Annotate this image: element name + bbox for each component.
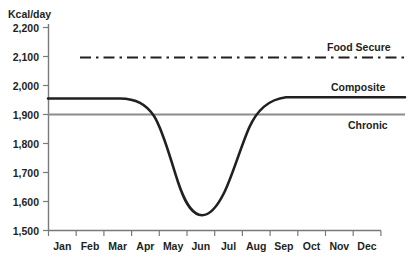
y-tick-label-2100: 2,100 — [13, 51, 39, 63]
x-tick-label-jan: Jan — [53, 240, 71, 252]
y-tick-label-2200: 2,200 — [13, 22, 39, 34]
x-tick-label-aug: Aug — [246, 240, 266, 252]
chart-container: Kcal/day 2,200 2,100 2,000 1,900 1,800 1… — [0, 0, 410, 262]
chart-canvas: Kcal/day 2,200 2,100 2,000 1,900 1,800 1… — [0, 0, 410, 262]
x-tick-label-dec: Dec — [357, 240, 376, 252]
x-tick-label-nov: Nov — [329, 240, 349, 252]
y-tick-label-1600: 1,600 — [13, 196, 39, 208]
x-axis-ticks — [49, 231, 381, 237]
chart-legend: Food Secure Composite Chronic — [327, 41, 391, 131]
x-tick-label-oct: Oct — [303, 240, 321, 252]
x-tick-label-sep: Sep — [274, 240, 293, 252]
y-axis-tick-labels: 2,200 2,100 2,000 1,900 1,800 1,700 1,60… — [13, 22, 39, 237]
chart-axes — [43, 24, 381, 236]
x-tick-label-jul: Jul — [221, 240, 236, 252]
y-axis-title: Kcal/day — [8, 8, 51, 20]
x-tick-label-feb: Feb — [81, 240, 100, 252]
x-axis-tick-labels: Jan Feb Mar Apr May Jun Jul Aug Sep Oct … — [53, 240, 377, 252]
x-tick-label-apr: Apr — [136, 240, 154, 252]
y-axis-ticks — [43, 28, 49, 231]
y-tick-label-1900: 1,900 — [13, 109, 39, 121]
legend-label-chronic: Chronic — [348, 119, 388, 131]
y-tick-label-1700: 1,700 — [13, 167, 39, 179]
y-tick-label-1800: 1,800 — [13, 138, 39, 150]
x-tick-label-mar: Mar — [108, 240, 127, 252]
y-tick-label-2000: 2,000 — [13, 80, 39, 92]
legend-label-composite: Composite — [331, 81, 385, 93]
legend-label-food-secure: Food Secure — [327, 41, 391, 53]
x-tick-label-jun: Jun — [191, 240, 210, 252]
y-tick-label-1500: 1,500 — [13, 225, 39, 237]
x-tick-label-may: May — [163, 240, 184, 252]
